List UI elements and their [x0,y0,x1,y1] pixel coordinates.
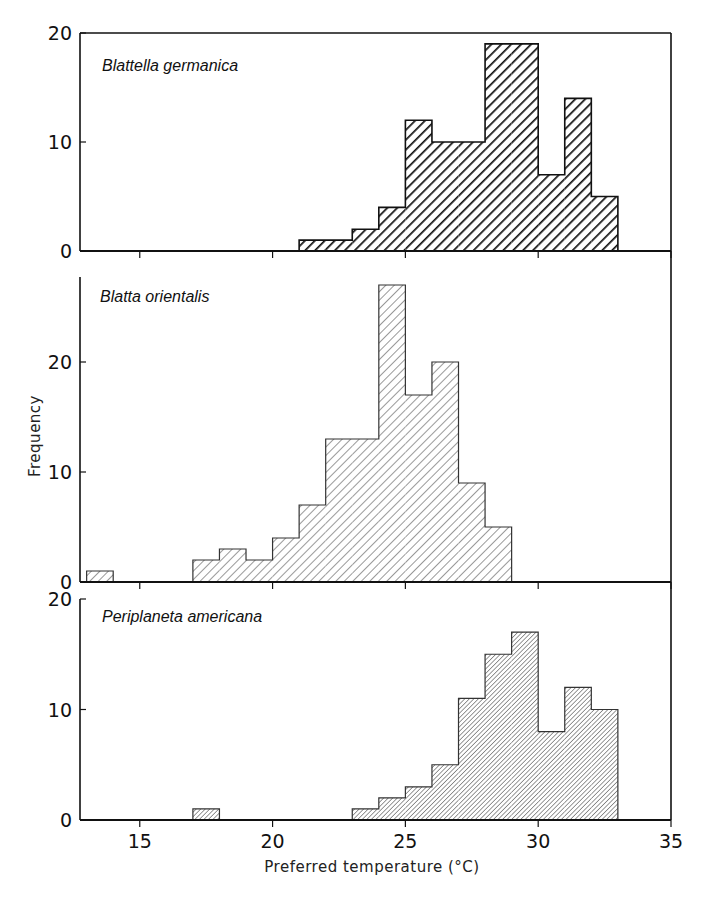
y-tick-label: 10 [48,461,72,483]
histogram-bar [459,142,486,251]
histogram-bar [326,439,353,582]
histogram-bar [405,395,432,582]
histogram-bar [565,687,592,820]
histogram-bar [432,765,459,820]
y-tick-label: 20 [48,588,72,610]
histogram-bar [299,240,326,251]
histogram-bar [459,483,486,582]
histogram-bar [538,175,565,251]
histogram-bar [379,285,406,582]
histogram-bar [326,240,353,251]
histogram-bar [352,809,379,820]
histogram-bar [352,439,379,582]
histogram-bar [299,505,326,582]
x-axis-title: Preferred temperature (°C) [264,858,479,876]
x-tick-label: 25 [393,830,417,852]
histogram-bar [512,44,539,251]
histogram-bar [512,632,539,820]
histogram-bar [87,571,114,582]
histogram-bar [459,698,486,820]
panel-label-blatta-orientalis: Blatta orientalis [100,288,209,305]
histogram-bar [405,120,432,251]
histogram-bar [591,197,618,252]
histogram-bar [591,710,618,821]
panel-label-blattella-germanica: Blattella germanica [102,57,238,74]
histogram-bar [193,809,220,820]
histogram-bar [485,654,512,820]
panel-label-periplaneta-americana: Periplaneta americana [102,608,262,625]
histogram-bar [485,44,512,251]
panels-group: 0102001020010201520253035 [48,22,683,852]
y-tick-label: 20 [48,22,72,44]
x-tick-label: 20 [260,830,284,852]
histogram-bar [432,362,459,582]
y-tick-label: 0 [60,240,72,262]
histogram-bar [193,560,220,582]
histogram-bar [219,549,246,582]
histogram-bar [405,787,432,820]
y-tick-label: 10 [48,699,72,721]
panel-blatta-orientalis: 01020 [48,277,671,593]
y-tick-label: 10 [48,131,72,153]
histogram-bar [352,229,379,251]
histogram-bar [565,98,592,251]
y-tick-label: 0 [60,809,72,831]
histogram-bar [485,527,512,582]
histogram-bar [246,560,273,582]
histogram-bar [379,207,406,251]
x-tick-label: 30 [526,830,550,852]
x-tick-label: 15 [128,830,152,852]
histogram-figure: 0102001020010201520253035 Blattella germ… [0,0,703,901]
histogram-bar [538,732,565,820]
histogram-bar [379,798,406,820]
y-axis-title: Frequency [26,395,44,477]
x-tick-label: 35 [659,830,683,852]
histogram-bar [273,538,300,582]
y-tick-label: 20 [48,351,72,373]
histogram-bar [432,142,459,251]
